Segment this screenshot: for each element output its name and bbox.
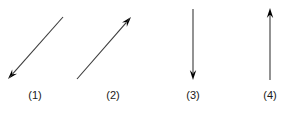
arrow-4-label: (4): [250, 88, 290, 102]
arrow-2-shaft: [77, 22, 126, 79]
figure-label-row: (1) (2) (3) (4): [0, 88, 290, 110]
arrow-1-shaft: [13, 17, 63, 74]
arrow-2-label: (2): [93, 88, 133, 102]
arrow-4-group: [267, 8, 273, 80]
arrow-figure: (1) (2) (3) (4): [0, 0, 290, 114]
arrow-1-label: (1): [15, 88, 55, 102]
arrow-3-group: [190, 9, 196, 80]
arrow-2-group: [77, 17, 131, 79]
arrow-3-label: (3): [173, 88, 213, 102]
arrow-1-group: [8, 17, 63, 79]
